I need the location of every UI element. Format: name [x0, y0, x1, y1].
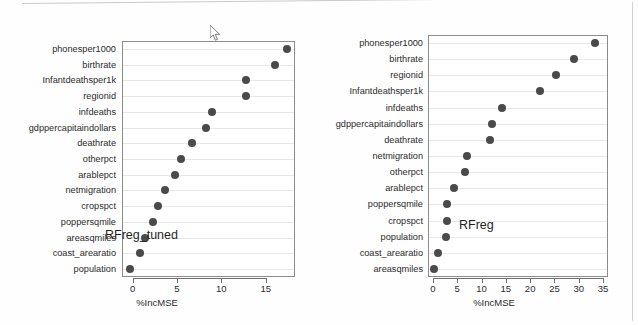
x-axis-line — [133, 278, 266, 279]
x-axis-tick-label: 30 — [574, 283, 585, 294]
gridline — [123, 175, 294, 176]
data-point — [442, 233, 450, 241]
data-point — [443, 217, 451, 225]
y-axis-tick-label: birthrate — [389, 54, 423, 64]
y-axis-tick-label: population — [74, 264, 116, 274]
gridline — [429, 140, 607, 141]
gridline — [123, 143, 294, 144]
x-axis-tick-label: 5 — [455, 283, 460, 294]
gridline — [123, 253, 294, 254]
x-axis-tick-label: 0 — [130, 283, 135, 294]
y-axis-tick-label: gdppercapitaindollars — [336, 119, 423, 129]
gridline — [123, 190, 294, 191]
y-axis-tick-label: phonesper1000 — [52, 44, 116, 54]
chart-panel-right: phonesper1000birthrateregionidInfantdeat… — [319, 0, 638, 325]
y-axis-tick-label: infdeaths — [386, 103, 423, 113]
y-axis-tick-label: gdppercapitaindollars — [29, 123, 116, 133]
y-axis-tick-label: coast_arearatio — [53, 248, 116, 258]
data-point — [488, 120, 496, 128]
x-axis-tick-label: 15 — [260, 283, 271, 294]
gridline — [429, 269, 607, 270]
x-axis-tick-label: 0 — [430, 283, 435, 294]
y-axis-tick-label: netmigration — [372, 151, 423, 161]
y-axis-tick-label: poppersqmile — [61, 217, 116, 227]
y-axis-tick-label: netmigration — [65, 185, 116, 195]
chart-title-left: RFreg_tuned — [105, 228, 178, 242]
y-axis-tick-label: coast_arearatio — [360, 248, 423, 258]
y-axis-tick-label: phonesper1000 — [359, 38, 423, 48]
gridline — [429, 108, 607, 109]
data-point — [498, 104, 506, 112]
x-axis-line — [433, 278, 603, 279]
gridline — [123, 159, 294, 160]
x-axis-title: %IncMSE — [473, 297, 515, 308]
gridline — [123, 65, 294, 66]
y-axis-tick-label: areasqmiles — [373, 264, 423, 274]
gridline — [123, 80, 294, 81]
x-axis-tick-label: 5 — [174, 283, 179, 294]
x-axis-tick-label: 10 — [476, 283, 487, 294]
y-axis-tick-label: regionid — [390, 70, 423, 80]
y-axis-tick-label: Infantdeathsper1k — [42, 75, 116, 85]
gridline — [429, 204, 607, 205]
x-axis-tick-label: 15 — [501, 283, 512, 294]
gridline — [123, 269, 294, 270]
data-point — [283, 45, 291, 53]
x-axis-title: %IncMSE — [136, 297, 178, 308]
gridline — [429, 253, 607, 254]
gridline — [123, 96, 294, 97]
gridline — [429, 237, 607, 238]
y-axis-tick-label: deathrate — [384, 135, 423, 145]
y-axis-tick-label: cropspct — [388, 216, 423, 226]
data-point — [202, 124, 210, 132]
gridline — [429, 124, 607, 125]
x-axis-tick-label: 35 — [598, 283, 609, 294]
gridline — [429, 172, 607, 173]
gridline — [429, 156, 607, 157]
y-axis-tick-label: poppersqmile — [368, 199, 423, 209]
gridline — [123, 49, 294, 50]
chart-title-right: RFreg — [459, 218, 494, 232]
y-axis-tick-label: population — [381, 232, 423, 242]
gridline — [123, 206, 294, 207]
y-axis-tick-label: otherpct — [390, 167, 423, 177]
y-axis-tick-label: Infantdeathsper1k — [349, 86, 423, 96]
gridline — [429, 91, 607, 92]
data-point — [171, 171, 179, 179]
y-axis-tick-label: regionid — [83, 91, 116, 101]
data-point — [149, 218, 157, 226]
y-axis-tick-label: arablepct — [78, 170, 116, 180]
y-axis-tick-label: cropspct — [81, 201, 116, 211]
x-axis-tick-label: 20 — [525, 283, 536, 294]
scanned-page: phonesper1000birthrateInfantdeathsper1kr… — [0, 0, 638, 325]
data-point — [591, 39, 599, 47]
data-point — [430, 265, 438, 273]
y-axis-tick-label: deathrate — [77, 138, 116, 148]
y-axis-tick-label: otherpct — [83, 154, 116, 164]
x-axis-tick-label: 10 — [216, 283, 227, 294]
gridline — [429, 43, 607, 44]
x-axis-tick-label: 25 — [549, 283, 560, 294]
data-point — [177, 155, 185, 163]
y-axis-tick-label: birthrate — [82, 60, 116, 70]
y-axis-tick-label: arablepct — [385, 183, 423, 193]
chart-panel-left: phonesper1000birthrateInfantdeathsper1kr… — [0, 0, 319, 325]
y-axis-tick-label: infdeaths — [79, 107, 116, 117]
data-point — [434, 249, 442, 257]
gridline — [429, 75, 607, 76]
gridline — [429, 59, 607, 60]
gridline — [429, 221, 607, 222]
mouse-pointer-icon — [210, 25, 222, 42]
